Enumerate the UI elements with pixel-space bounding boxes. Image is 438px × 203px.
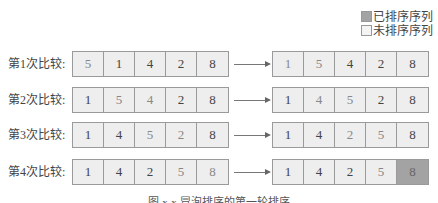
cell: 1: [273, 123, 304, 147]
cell: 8: [197, 123, 228, 147]
cell: 1: [73, 123, 104, 147]
cell: 2: [166, 52, 197, 76]
arrow-right-icon: [234, 52, 272, 76]
cell: 4: [104, 123, 135, 147]
cell: 1: [273, 88, 304, 112]
arrow-right-icon: [234, 88, 272, 112]
cell: 4: [135, 88, 166, 112]
array-after-4: 1 4 2 5 8: [272, 159, 429, 185]
sorted-cell: 8: [397, 160, 428, 184]
cell: 2: [166, 88, 197, 112]
cell: 1: [104, 52, 135, 76]
cell: 4: [304, 160, 335, 184]
cell: 5: [73, 52, 104, 76]
array-after-2: 1 4 5 2 8: [272, 87, 429, 113]
array-after-1: 1 5 4 2 8: [272, 51, 429, 77]
cell: 8: [197, 160, 228, 184]
row-label-3: 第3次比较:: [8, 123, 72, 147]
cell: 2: [335, 160, 366, 184]
cell: 2: [366, 88, 397, 112]
cell: 8: [397, 88, 428, 112]
array-before-2: 1 5 4 2 8: [72, 87, 229, 113]
cell: 5: [166, 160, 197, 184]
cell: 5: [304, 52, 335, 76]
cell: 4: [335, 52, 366, 76]
array-before-1: 5 1 4 2 8: [72, 51, 229, 77]
cell: 1: [73, 160, 104, 184]
cell: 5: [335, 88, 366, 112]
cell: 1: [273, 52, 304, 76]
cell: 2: [366, 52, 397, 76]
cell: 2: [335, 123, 366, 147]
cell: 2: [166, 123, 197, 147]
sorted-swatch-icon: [361, 11, 372, 22]
legend-unsorted: 未排序序列: [361, 21, 433, 39]
cell: 5: [366, 123, 397, 147]
cell: 5: [366, 160, 397, 184]
cell: 5: [104, 88, 135, 112]
cell: 1: [73, 88, 104, 112]
cell: 4: [304, 88, 335, 112]
cell: 4: [135, 52, 166, 76]
row-label-1: 第1次比较:: [8, 52, 72, 76]
array-before-4: 1 4 2 5 8: [72, 159, 229, 185]
row-label-2: 第2次比较:: [8, 88, 72, 112]
arrow-right-icon: [234, 123, 272, 147]
array-after-3: 1 4 2 5 8: [272, 122, 429, 148]
cell: 4: [304, 123, 335, 147]
unsorted-swatch-icon: [361, 25, 372, 36]
cell: 4: [104, 160, 135, 184]
arrow-right-icon: [234, 160, 272, 184]
cell: 8: [397, 123, 428, 147]
cell: 8: [197, 52, 228, 76]
array-before-3: 1 4 5 2 8: [72, 122, 229, 148]
cell: 1: [273, 160, 304, 184]
legend-unsorted-label: 未排序序列: [373, 21, 433, 39]
cell: 8: [197, 88, 228, 112]
cell: 2: [135, 160, 166, 184]
figure-caption: 图 x-x 冒泡排序的第一轮排序: [0, 193, 438, 203]
cell: 8: [397, 52, 428, 76]
cell: 5: [135, 123, 166, 147]
row-label-4: 第4次比较:: [8, 160, 72, 184]
